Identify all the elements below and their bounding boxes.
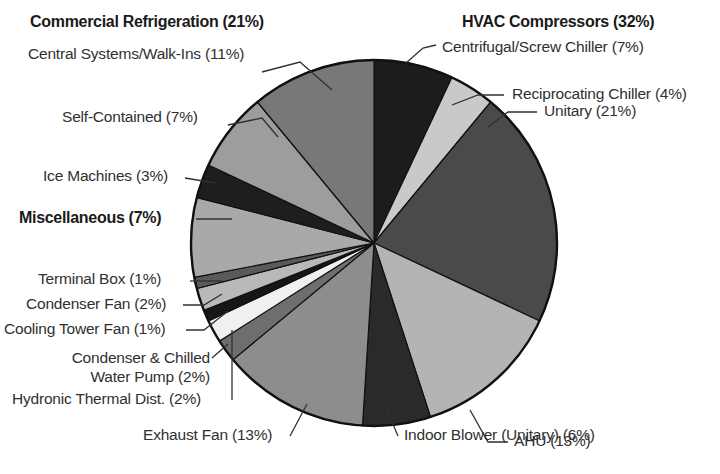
pie-slice-group: Centrifugal/Screw Chiller (7%)Reciprocat…: [191, 60, 557, 426]
label-condenser-chilled-line2: Water Pump (2%): [90, 368, 210, 385]
label-central-systems: Central Systems/Walk-Ins (11%): [28, 45, 244, 63]
label-commercial-refrigeration-heading: Commercial Refrigeration (21%): [30, 13, 264, 31]
label-condenser-chilled-water-pump: Condenser & ChilledWater Pump (2%): [30, 348, 210, 386]
label-miscellaneous-heading: Miscellaneous (7%): [19, 209, 161, 227]
leader-line-centrifugal: [406, 45, 436, 63]
label-unitary: Unitary (21%): [544, 102, 636, 120]
pie-chart-page: Centrifugal/Screw Chiller (7%)Reciprocat…: [0, 0, 720, 474]
label-hydronic-thermal-dist: Hydronic Thermal Dist. (2%): [12, 390, 201, 408]
label-condenser-chilled-line1: Condenser & Chilled: [72, 349, 210, 366]
label-cooling-tower-fan: Cooling Tower Fan (1%): [4, 320, 166, 338]
label-ice-machines: Ice Machines (3%): [43, 167, 168, 185]
label-hvac-compressors-heading: HVAC Compressors (32%): [462, 13, 654, 31]
label-self-contained: Self-Contained (7%): [62, 108, 198, 126]
label-terminal-box: Terminal Box (1%): [38, 270, 161, 288]
label-centrifugal-screw-chiller: Centrifugal/Screw Chiller (7%): [442, 38, 644, 56]
label-ahu: AHU (13%): [514, 432, 591, 450]
label-reciprocating-chiller: Reciprocating Chiller (4%): [512, 85, 687, 103]
label-condenser-fan: Condenser Fan (2%): [26, 295, 166, 313]
label-exhaust-fan: Exhaust Fan (13%): [143, 426, 272, 444]
